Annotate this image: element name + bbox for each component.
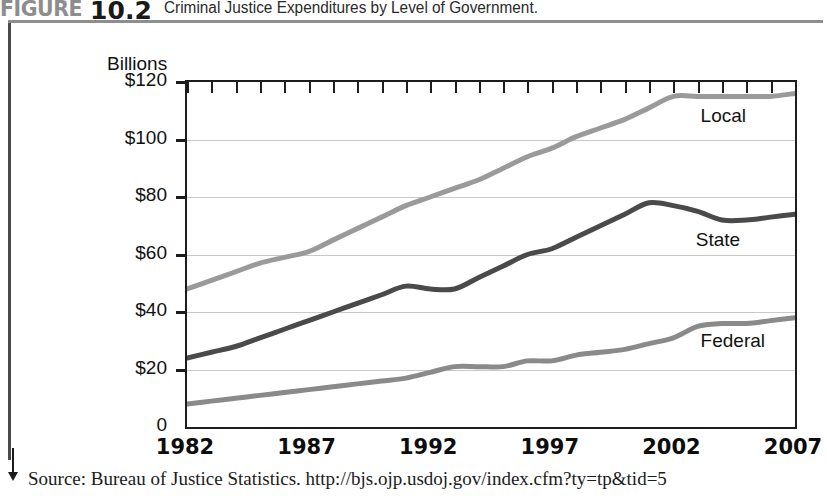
- y-axis-label: $20: [77, 357, 167, 379]
- y-axis-label: 0: [77, 414, 167, 436]
- y-axis-tick: [176, 81, 187, 84]
- figure-label: FIGURE: [0, 0, 82, 21]
- y-axis-tick: [176, 311, 187, 314]
- y-axis-label: $40: [77, 299, 167, 321]
- series-label-local: Local: [701, 105, 746, 127]
- y-axis-tick: [176, 254, 187, 257]
- x-axis-label: 2007: [764, 435, 822, 459]
- series-layer: [187, 82, 795, 427]
- x-axis-label: 1997: [521, 435, 579, 459]
- y-axis-tick: [176, 196, 187, 199]
- figure-caption: Criminal Justice Expenditures by Level o…: [164, 0, 538, 17]
- y-axis-label: $60: [77, 242, 167, 264]
- x-axis-label: 2002: [642, 435, 700, 459]
- y-axis-label: $80: [77, 184, 167, 206]
- y-axis-label: $100: [77, 127, 167, 149]
- down-arrow-icon: [6, 448, 20, 482]
- x-axis-tick: [795, 82, 797, 93]
- plot-area: [185, 80, 797, 429]
- x-axis-label: 1982: [156, 435, 214, 459]
- figure-header: FIGURE10.2Criminal Justice Expenditures …: [0, 0, 827, 22]
- x-axis-label: 1992: [399, 435, 457, 459]
- y-axis-label: $120: [77, 69, 167, 91]
- y-axis-tick: [176, 369, 187, 372]
- x-axis-label: 1987: [277, 435, 335, 459]
- source-row: Source: Bureau of Justice Statistics. ht…: [0, 466, 827, 498]
- y-axis-tick: [176, 139, 187, 142]
- source-text: Source: Bureau of Justice Statistics. ht…: [28, 468, 667, 490]
- series-label-federal: Federal: [701, 330, 765, 352]
- figure-number: 10.2: [90, 0, 152, 22]
- chart-panel: Billions $120$100$80$60$40$2001982198719…: [8, 23, 819, 460]
- series-label-state: State: [696, 229, 740, 251]
